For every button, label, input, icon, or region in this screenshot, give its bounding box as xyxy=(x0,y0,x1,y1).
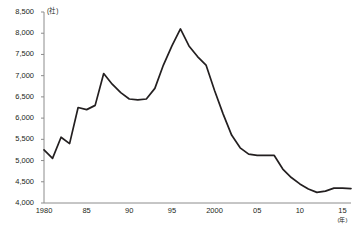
y-axis-tick-label: 8,500 xyxy=(0,7,34,16)
y-axis-tick-label: 5,500 xyxy=(0,134,34,143)
data-series-line xyxy=(44,29,351,192)
y-axis-tick-label: 4,500 xyxy=(0,177,34,186)
x-axis-tick-label: 15 xyxy=(322,206,353,215)
x-axis-tick-label: 95 xyxy=(152,206,192,215)
x-axis-tick-label: 05 xyxy=(237,206,277,215)
x-axis-tick-label: 1980 xyxy=(24,206,64,215)
x-axis-tick-label: 85 xyxy=(67,206,107,215)
x-axis-tick-label: 2000 xyxy=(195,206,235,215)
y-axis-tick-label: 6,500 xyxy=(0,92,34,101)
y-axis-tick-label: 8,000 xyxy=(0,28,34,37)
x-axis-unit-label: (年) xyxy=(322,215,353,224)
x-axis-tick-label: 10 xyxy=(280,206,320,215)
y-axis-tick-label: 7,500 xyxy=(0,49,34,58)
chart-canvas xyxy=(0,0,353,227)
y-axis-tick-label: 7,000 xyxy=(0,71,34,80)
x-axis-tick-label: 90 xyxy=(109,206,149,215)
y-axis-tick-label: 5,000 xyxy=(0,156,34,165)
line-chart: (社) 8,5008,0007,5007,0006,5006,0005,5005… xyxy=(0,0,353,227)
y-axis-tick-label: 6,000 xyxy=(0,113,34,122)
